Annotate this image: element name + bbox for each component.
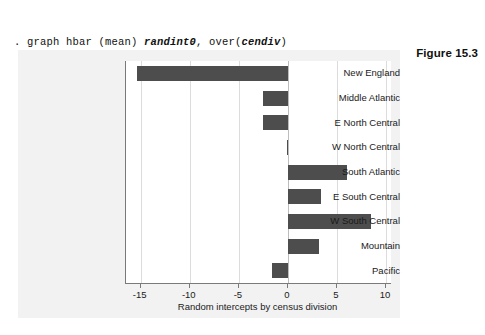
category-label: W South Central bbox=[297, 215, 400, 226]
tick-label: -10 bbox=[169, 289, 209, 300]
command-line1-prefix: . graph hbar (mean) bbox=[14, 36, 144, 48]
command-line1-mid: , over( bbox=[196, 36, 242, 48]
command-line1-suffix: ) bbox=[281, 36, 288, 48]
category-label: New England bbox=[297, 67, 400, 78]
bar bbox=[263, 115, 288, 130]
tick-mark bbox=[189, 284, 190, 288]
bar bbox=[287, 140, 288, 155]
bar bbox=[137, 66, 288, 81]
tick-label: 10 bbox=[365, 289, 405, 300]
category-label: South Atlantic bbox=[297, 166, 400, 177]
category-label: E South Central bbox=[297, 191, 400, 202]
tick-label: -5 bbox=[218, 289, 258, 300]
figure-caption: Figure 15.3 bbox=[416, 47, 478, 59]
tick-mark bbox=[336, 284, 337, 288]
tick-label: 0 bbox=[267, 289, 307, 300]
category-label: Middle Atlantic bbox=[297, 92, 400, 103]
command-variable-cendiv: cendiv bbox=[242, 36, 281, 48]
command-line-1: . graph hbar (mean) randint0, over(cendi… bbox=[0, 35, 485, 49]
category-label: Mountain bbox=[297, 240, 400, 251]
tick-mark bbox=[385, 284, 386, 288]
bar bbox=[272, 263, 288, 278]
category-label: E North Central bbox=[297, 117, 400, 128]
graph-region: New EnglandMiddle AtlanticE North Centra… bbox=[18, 50, 400, 318]
tick-mark bbox=[140, 284, 141, 288]
bar bbox=[263, 91, 288, 106]
tick-mark bbox=[287, 284, 288, 288]
tick-label: -15 bbox=[120, 289, 160, 300]
category-label: Pacific bbox=[297, 265, 400, 276]
x-axis-title: Random intercepts by census division bbox=[125, 301, 390, 312]
category-label: W North Central bbox=[297, 141, 400, 152]
gridline bbox=[141, 61, 142, 283]
tick-label: 5 bbox=[316, 289, 356, 300]
gridline bbox=[190, 61, 191, 283]
command-variable-randint0: randint0 bbox=[144, 36, 196, 48]
gridline bbox=[239, 61, 240, 283]
tick-mark bbox=[238, 284, 239, 288]
